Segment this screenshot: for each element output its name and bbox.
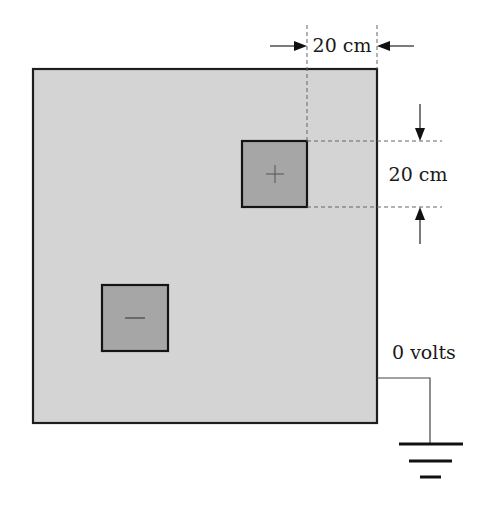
- arrow-down-icon: [415, 128, 425, 141]
- negative-plate: [102, 285, 168, 351]
- positive-plate: [242, 141, 307, 207]
- ground-icon: [399, 444, 463, 477]
- vertical-dimension-label: 20 cm: [389, 163, 448, 185]
- ground-wire: [377, 378, 430, 444]
- diagram-canvas: 20 cm 20 cm 0 volts: [0, 0, 493, 506]
- horizontal-dimension-label: 20 cm: [313, 34, 372, 56]
- ground-voltage-label: 0 volts: [392, 341, 456, 363]
- conducting-sheet: [33, 69, 377, 423]
- arrow-right-icon: [294, 41, 307, 51]
- arrow-left-icon: [377, 41, 390, 51]
- arrow-up-icon: [415, 207, 425, 220]
